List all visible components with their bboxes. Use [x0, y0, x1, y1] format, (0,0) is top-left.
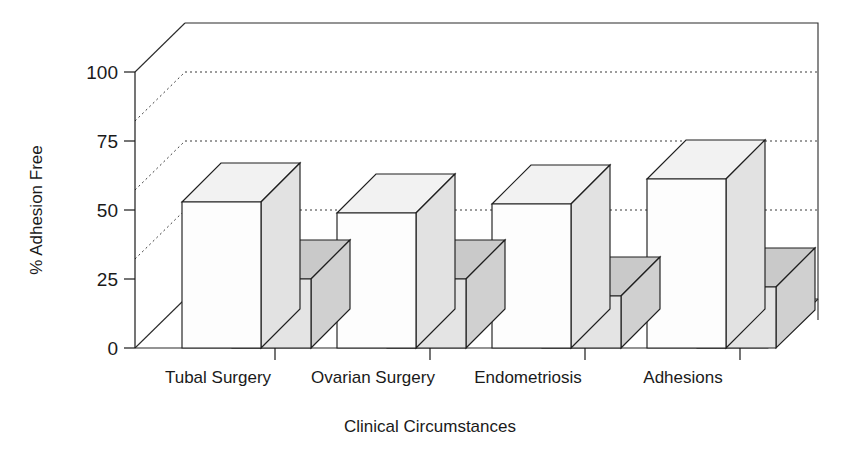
bar-front-adhesions — [647, 140, 765, 348]
x-category-label-adhesions: Adhesions — [643, 368, 722, 387]
bar-front-ovarian-surgery — [337, 174, 455, 348]
x-category-label-tubal-surgery: Tubal Surgery — [165, 368, 272, 387]
bar-chart-3d: 100 75 50 25 0 % Adhesion Free — [0, 0, 844, 462]
y-tick-label-50: 50 — [97, 200, 118, 221]
bar-front-endometriosis — [492, 165, 610, 348]
y-tick-label-75: 75 — [97, 131, 118, 152]
bar-front-tubal-surgery — [182, 163, 300, 348]
bar-front-tubal-surgery-front — [182, 202, 261, 348]
x-category-label-endometriosis: Endometriosis — [474, 368, 582, 387]
y-axis-title: % Adhesion Free — [27, 145, 46, 274]
y-tick-label-100: 100 — [86, 62, 118, 83]
chart-figure: 100 75 50 25 0 % Adhesion Free — [0, 0, 844, 462]
y-tick-label-25: 25 — [97, 269, 118, 290]
x-axis-title: Clinical Circumstances — [344, 417, 516, 436]
x-category-label-ovarian-surgery: Ovarian Surgery — [311, 368, 435, 387]
y-tick-label-0: 0 — [107, 338, 118, 359]
